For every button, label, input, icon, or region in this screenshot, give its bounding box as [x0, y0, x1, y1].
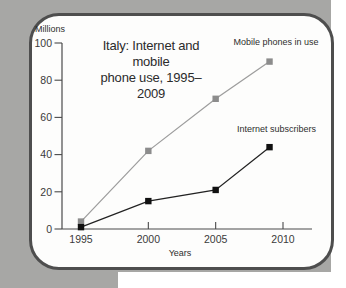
y-tick-label: 80: [40, 74, 52, 86]
series-label-internet-subscribers: Internet subscribers: [228, 124, 325, 134]
chart-title-line2: phone use, 1995–2009: [88, 70, 214, 102]
series-line-internet: [81, 147, 270, 227]
x-tick-label: 2000: [137, 233, 161, 245]
data-point-marker-internet: [266, 144, 272, 150]
chart-title: Italy: Internet and mobile phone use, 19…: [88, 38, 214, 102]
x-axis-title: Years: [155, 248, 205, 258]
y-tick-label: 100: [34, 37, 52, 49]
data-point-marker-internet: [145, 198, 151, 204]
y-tick-label: 0: [46, 223, 52, 235]
data-point-marker-mobile: [266, 58, 272, 64]
series-label-mobile-phones: Mobile phones in use: [226, 37, 326, 47]
data-point-marker-mobile: [78, 218, 84, 224]
x-tick-label: 2005: [204, 233, 228, 245]
x-tick-label: 2010: [271, 233, 295, 245]
data-point-marker-mobile: [145, 148, 151, 154]
x-tick-label: 1995: [69, 233, 93, 245]
chart-title-line1: Italy: Internet and mobile: [88, 38, 214, 70]
y-tick-label: 20: [40, 186, 52, 198]
y-tick-label: 40: [40, 148, 52, 160]
data-point-marker-internet: [212, 187, 218, 193]
y-tick-label: 60: [40, 111, 52, 123]
data-point-marker-internet: [78, 224, 84, 230]
y-axis-title: Millions: [35, 24, 65, 34]
